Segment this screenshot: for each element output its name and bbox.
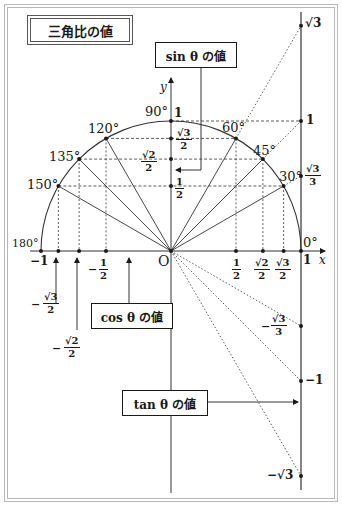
sin-half: 12 — [175, 177, 184, 200]
sin-sqrt2-2: √22 — [141, 150, 157, 173]
tan-neg-sqrt3-3: √33 — [271, 314, 287, 337]
cos-sqrt3-2: √32 — [275, 258, 291, 281]
tan-one: 1 — [306, 114, 314, 126]
sin-one: 1 — [174, 107, 182, 119]
x-axis-label: x — [319, 253, 326, 267]
cos-neg-one: −1 — [30, 255, 48, 267]
angle-30: 30° — [279, 170, 302, 183]
angle-180: 180° — [12, 238, 39, 249]
angle-135: 135° — [49, 150, 80, 163]
cos-one: 1 — [303, 254, 311, 266]
title-box: 三角比の値 — [27, 15, 133, 45]
angle-0: 0° — [303, 236, 318, 249]
tan-value-box: tan θ の値 — [122, 390, 208, 416]
tan-sqrt3-3: √33 — [305, 164, 321, 187]
tan-neg-sqrt3-3-sign: − — [261, 320, 270, 333]
angle-120: 120° — [88, 122, 119, 135]
sin-sqrt3-2: √32 — [176, 128, 192, 151]
cos-neg-sqrt2-2-sign: − — [52, 342, 61, 355]
page-title: 三角比の値 — [30, 18, 130, 42]
angle-45: 45° — [253, 144, 276, 157]
cos-value-box: cos θ の値 — [91, 303, 173, 329]
cos-sqrt2-2: √22 — [254, 258, 270, 281]
cos-neg-sqrt3-2-sign: − — [31, 298, 40, 311]
angle-90: 90° — [145, 105, 168, 118]
cos-neg-half-sign: − — [88, 263, 97, 276]
unit-circle-diagram — [0, 0, 342, 509]
cos-neg-sqrt2-2: √22 — [64, 336, 80, 359]
tan-sqrt3: √3 — [305, 17, 321, 29]
origin-label: O — [158, 254, 169, 268]
angle-60: 60° — [222, 121, 245, 134]
cos-neg-half: 12 — [99, 258, 108, 281]
y-axis-label: y — [160, 80, 167, 94]
angle-150: 150° — [27, 178, 58, 191]
tan-neg-one: −1 — [305, 374, 323, 386]
sin-value-box: sin θ の値 — [155, 42, 237, 68]
cos-half: 12 — [232, 258, 241, 281]
cos-neg-sqrt3-2: √32 — [43, 292, 59, 315]
tan-neg-sqrt3: −√3 — [267, 469, 293, 481]
